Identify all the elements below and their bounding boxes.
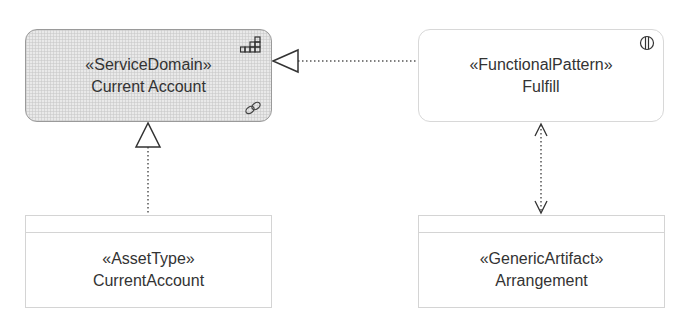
grid-staircase-icon bbox=[240, 35, 262, 57]
stereotype-label: «ServiceDomain» bbox=[85, 54, 211, 76]
class-header-compartment bbox=[26, 216, 271, 233]
association-edge-fulfill-arrangement[interactable] bbox=[535, 124, 547, 213]
stereotype-label: «GenericArtifact» bbox=[480, 248, 604, 270]
functional-pattern-node[interactable]: «FunctionalPattern» Fulfill bbox=[418, 29, 664, 122]
service-domain-node[interactable]: «ServiceDomain» Current Account bbox=[25, 29, 272, 122]
element-name: Arrangement bbox=[495, 270, 588, 292]
split-circle-icon bbox=[639, 35, 655, 51]
class-header-compartment bbox=[419, 216, 664, 233]
link-chain-icon bbox=[244, 101, 262, 115]
hollow-triangle-arrowhead-icon bbox=[136, 123, 160, 147]
realization-edge-fulfill-to-current-account[interactable] bbox=[273, 50, 418, 72]
hollow-triangle-arrowhead-icon bbox=[273, 50, 298, 72]
open-arrowhead-down-icon bbox=[535, 201, 547, 213]
element-name: Current Account bbox=[91, 76, 206, 98]
realization-edge-currentaccount-to-current-account[interactable] bbox=[136, 123, 160, 215]
generic-artifact-node[interactable]: «GenericArtifact» Arrangement bbox=[418, 215, 665, 308]
element-name: CurrentAccount bbox=[93, 270, 204, 292]
class-body-compartment: «GenericArtifact» Arrangement bbox=[419, 233, 664, 307]
element-name: Fulfill bbox=[522, 76, 559, 98]
class-body-compartment: «AssetType» CurrentAccount bbox=[26, 233, 271, 307]
stereotype-label: «FunctionalPattern» bbox=[469, 54, 612, 76]
stereotype-label: «AssetType» bbox=[102, 248, 195, 270]
asset-type-node[interactable]: «AssetType» CurrentAccount bbox=[25, 215, 272, 308]
